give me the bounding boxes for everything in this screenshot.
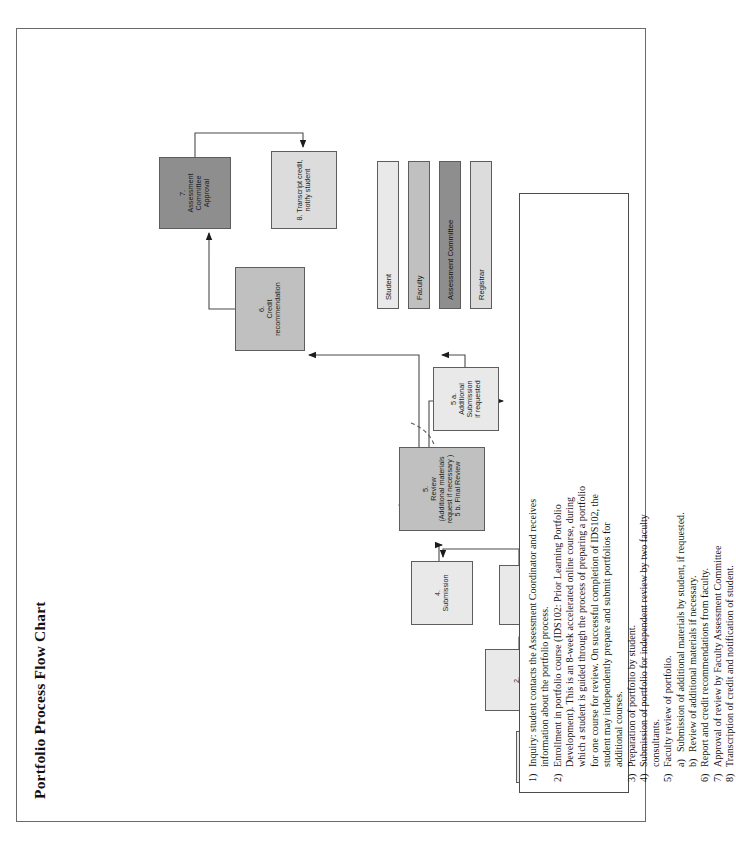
- note-item: Development). This is an 8-week accelera…: [564, 204, 576, 782]
- note-text: Report and credit recommendations from f…: [699, 204, 711, 767]
- legend-item-assessment-committee: Assessment Committee: [439, 161, 461, 309]
- note-text: Enrollment in portfolio course (IDS102: …: [552, 204, 564, 767]
- note-text: Approval of review by Faculty Assessment…: [712, 204, 724, 767]
- note-text: additional courses.: [613, 204, 625, 767]
- note-item: 1)Inquiry: student contacts the Assessme…: [527, 204, 539, 782]
- note-text: which a student is guided through the pr…: [576, 204, 588, 767]
- note-item: 2)Enrollment in portfolio course (IDS102…: [552, 204, 564, 782]
- note-number: 1): [527, 767, 539, 782]
- note-item: information about the portfolio process.: [539, 204, 551, 782]
- note-item: for one course for review. On successful…: [589, 204, 601, 782]
- note-number: 5): [662, 767, 674, 782]
- note-text: for one course for review. On successful…: [589, 204, 601, 767]
- note-text: Development). This is an 8-week accelera…: [564, 204, 576, 767]
- note-text: information about the portfolio process.: [539, 204, 551, 767]
- note-text: consultants.: [650, 204, 662, 767]
- note-item: student may independently prepare and su…: [601, 204, 613, 782]
- legend-item-student: Student: [377, 161, 399, 309]
- flow-node-4-submission[interactable]: 4. Submission: [411, 561, 473, 625]
- note-text: Preparation of portfolio by student.: [626, 204, 638, 767]
- note-item: 4)Submission of portfolio for independen…: [638, 204, 650, 782]
- note-item: a)Submission of additional materials by …: [675, 204, 687, 782]
- process-notes-box: 1)Inquiry: student contacts the Assessme…: [519, 193, 629, 793]
- note-number: 4): [638, 767, 650, 782]
- note-number: b): [687, 752, 699, 767]
- note-item: b)Review of additional materials if nece…: [687, 204, 699, 782]
- note-item: 6)Report and credit recommendations from…: [699, 204, 711, 782]
- note-number: 8): [724, 767, 736, 782]
- note-item: 8)Transcription of credit and notificati…: [724, 204, 736, 782]
- note-number: 6): [699, 767, 711, 782]
- note-text: student may independently prepare and su…: [601, 204, 613, 767]
- note-text: Faculty review of portfolio.: [662, 204, 674, 767]
- flow-node-8-transcript-credit[interactable]: 8. Transcript credit, notify student: [271, 151, 337, 229]
- scanned-page-sheet: Portfolio Process Flow Chart: [16, 28, 646, 822]
- note-number: a): [675, 752, 687, 767]
- note-text: Transcription of credit and notification…: [724, 204, 736, 767]
- note-item: 5)Faculty review of portfolio.: [662, 204, 674, 782]
- note-number: 3): [626, 767, 638, 782]
- note-item: 7)Approval of review by Faculty Assessme…: [712, 204, 724, 782]
- note-number: 2): [552, 767, 564, 782]
- flow-node-7-committee-approval[interactable]: 7. Assessment Committee Approval: [159, 157, 231, 229]
- note-item: which a student is guided through the pr…: [576, 204, 588, 782]
- note-item: consultants.: [650, 204, 662, 782]
- note-text: Inquiry: student contacts the Assessment…: [527, 204, 539, 767]
- note-text: Review of additional materials if necess…: [687, 204, 699, 752]
- note-text: Submission of portfolio for independent …: [638, 204, 650, 767]
- note-item: additional courses.: [613, 204, 625, 782]
- legend: Student Faculty Assessment Committee Reg…: [377, 159, 495, 309]
- flow-node-5a-additional-submission[interactable]: 5 a. Additional Submission if requested: [433, 367, 499, 431]
- note-item: 3)Preparation of portfolio by student.: [626, 204, 638, 782]
- legend-item-faculty: Faculty: [408, 161, 430, 309]
- flow-node-5-review[interactable]: 5. Review (Additional materials request …: [399, 447, 485, 531]
- flow-chart-document: Portfolio Process Flow Chart: [19, 31, 645, 821]
- note-number: 7): [712, 767, 724, 782]
- note-text: Submission of additional materials by st…: [675, 204, 687, 752]
- legend-item-registrar: Registrar: [470, 161, 492, 309]
- flow-node-6-credit-recommendation[interactable]: 6. Credit recommendation: [235, 267, 305, 351]
